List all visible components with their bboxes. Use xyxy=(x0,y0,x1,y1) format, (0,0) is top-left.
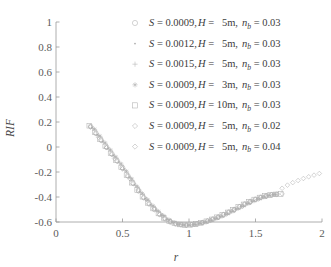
legend-s-term: S = 0.0009, xyxy=(149,141,197,152)
legend-marker xyxy=(134,43,136,45)
legend-h-value: 5m, xyxy=(222,17,238,28)
legend-h-term: H = xyxy=(197,38,214,49)
legend-h-value: 5m, xyxy=(222,58,238,69)
y-tick-label: 0 xyxy=(47,141,53,153)
legend-h-term: H = xyxy=(197,17,214,28)
legend-h-term: H = xyxy=(197,58,214,69)
y-tick-label: 0.2 xyxy=(38,116,52,128)
x-tick-label: 1 xyxy=(186,227,192,239)
y-tick-label: 0.8 xyxy=(38,41,52,53)
legend-h-term: H = xyxy=(197,141,214,152)
chart-figure: 10.80.60.40.20-0.2-0.4-0.6 00.511.52 RIF… xyxy=(0,0,331,267)
legend-h-term: H = xyxy=(197,79,214,90)
legend-s-term: S = 0.0009, xyxy=(149,99,197,110)
legend-s-term: S = 0.0009, xyxy=(149,17,197,28)
legend-h-term: H = xyxy=(197,120,214,131)
y-tick-label: 0.6 xyxy=(38,66,52,78)
legend-h-value: 5m, xyxy=(222,120,238,131)
x-tick-label: 0.5 xyxy=(116,227,130,239)
y-tick-label: -0.4 xyxy=(35,191,53,203)
y-axis-title: RIF xyxy=(4,118,16,138)
x-tick-label: 0 xyxy=(53,227,59,239)
legend-h-term: H = xyxy=(197,99,214,110)
y-tick-label: -0.6 xyxy=(35,216,53,228)
legend-s-term: S = 0.0012, xyxy=(149,38,197,49)
legend-s-term: S = 0.0015, xyxy=(149,58,197,69)
legend-h-value: 5m, xyxy=(222,38,238,49)
scatter-plot: 10.80.60.40.20-0.2-0.4-0.6 00.511.52 RIF… xyxy=(0,0,331,267)
x-tick-label: 2 xyxy=(319,227,325,239)
legend-s-term: S = 0.0009, xyxy=(149,79,197,90)
y-tick-label: -0.2 xyxy=(35,166,52,178)
legend-s-term: S = 0.0009, xyxy=(149,120,197,131)
y-axis: 10.80.60.40.20-0.2-0.4-0.6 xyxy=(35,16,60,228)
legend-h-value: 3m, xyxy=(222,79,238,90)
legend-h-value: 10m, xyxy=(217,99,238,110)
y-tick-label: 0.4 xyxy=(38,91,52,103)
legend-h-value: 5m, xyxy=(222,141,238,152)
x-tick-label: 1.5 xyxy=(249,227,263,239)
x-axis-title: r xyxy=(174,251,179,263)
y-tick-label: 1 xyxy=(47,16,53,28)
